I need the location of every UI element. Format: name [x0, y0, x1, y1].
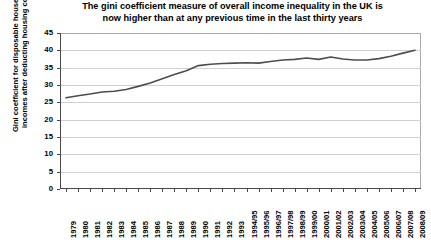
y-tick-label: 10 — [3, 150, 53, 158]
x-tick-label: 2000/01 — [322, 211, 331, 238]
x-tick-label: 1992 — [225, 221, 234, 238]
x-tick-label: 1986 — [153, 221, 162, 238]
y-tick-label: 25 — [3, 98, 53, 106]
x-tick-label: 1993 — [237, 221, 246, 238]
gini-line — [66, 50, 415, 98]
plot-area — [60, 33, 421, 189]
source-note — [60, 240, 390, 245]
y-tick-label: 30 — [3, 81, 53, 89]
chart-title-line-1: The gini coefficient measure of overall … — [82, 1, 383, 11]
x-tick-label: 2003/04 — [358, 211, 367, 238]
x-tick-label: 1987 — [165, 221, 174, 238]
x-tick-label: 1979 — [69, 221, 78, 238]
x-tick-label: 2008/09 — [418, 211, 427, 238]
y-tick-label: 0 — [3, 185, 53, 193]
x-tick-label: 1999/00 — [310, 211, 319, 238]
x-tick-label: 1982 — [105, 221, 114, 238]
y-tick-label: 35 — [3, 64, 53, 72]
x-tick-label: 1985 — [141, 221, 150, 238]
x-tick-label: 1984 — [129, 221, 138, 238]
x-tick-label: 2007/08 — [406, 211, 415, 238]
x-tick-label: 2002/03 — [346, 211, 355, 238]
y-tick-label: 15 — [3, 133, 53, 141]
x-tick-label: 1991 — [213, 221, 222, 238]
x-tick-label: 1998/99 — [298, 211, 307, 238]
x-tick-label: 2004/05 — [370, 211, 379, 238]
chart-title-line-2: now higher than at any previous time in … — [103, 13, 363, 23]
gini-coefficient-chart: The gini coefficient measure of overall … — [0, 0, 431, 245]
x-tick-label: 1997/98 — [286, 211, 295, 238]
chart-title: The gini coefficient measure of overall … — [40, 1, 425, 24]
x-tick-label: 1981 — [93, 221, 102, 238]
y-tick-label: 40 — [3, 46, 53, 54]
y-tick-label: 20 — [3, 116, 53, 124]
gini-line-series — [60, 33, 421, 189]
y-axis-tick-labels: 051015202530354045 — [0, 33, 56, 189]
y-tick-label: 5 — [3, 168, 53, 176]
x-tick-label: 1988 — [177, 221, 186, 238]
x-tick-label: 1989 — [189, 221, 198, 238]
x-tick-label: 2006/07 — [394, 211, 403, 238]
x-tick-label: 1983 — [117, 221, 126, 238]
x-tick-label: 1990 — [201, 221, 210, 238]
y-tick-mark — [57, 189, 60, 190]
x-tick-label: 1995/96 — [262, 211, 271, 238]
x-tick-label: 2001/02 — [334, 211, 343, 238]
x-tick-label: 1994/95 — [250, 211, 259, 238]
x-axis-tick-labels: 1979198019811982198319841985198619871988… — [60, 192, 421, 244]
x-tick-label: 1996/97 — [274, 211, 283, 238]
y-tick-label: 45 — [3, 29, 53, 37]
x-tick-label: 2005/06 — [382, 211, 391, 238]
x-tick-label: 1980 — [81, 221, 90, 238]
